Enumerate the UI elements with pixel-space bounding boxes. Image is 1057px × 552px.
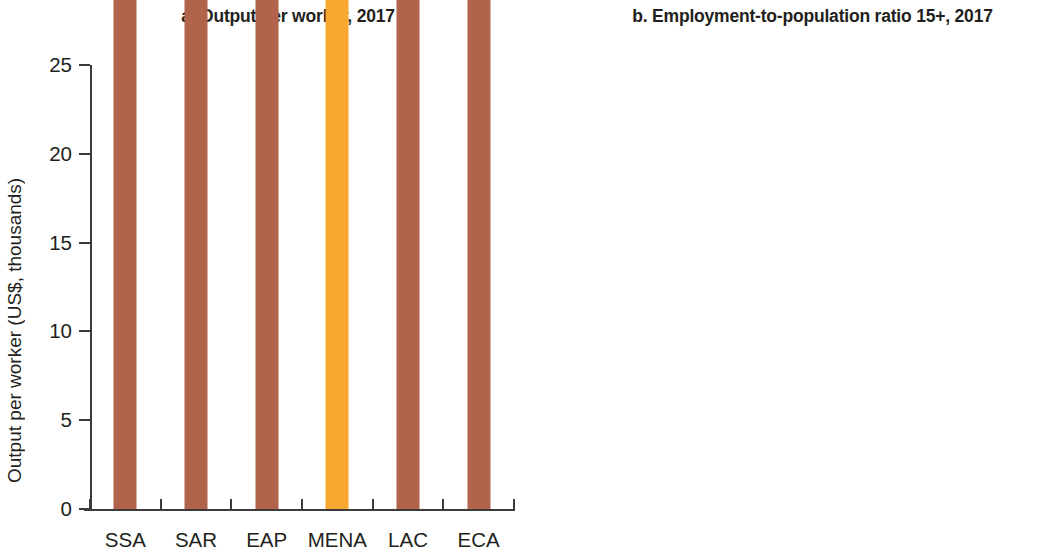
x-category-label-lac: LAC [388,528,428,552]
panel-a-x-tick [301,499,303,511]
panel-a-x-tick [442,499,444,511]
panel-b-title: b. Employment-to-population ratio 15+, 2… [530,6,1057,27]
panel-a-y-tick-label: 0 [61,497,72,521]
bar-a-mena[interactable]: 15,812MENA [326,0,349,509]
x-category-label-eca: ECA [458,528,500,552]
panel-a-y-tick-label: 10 [49,319,72,343]
panel-a-output-per-worker: a. Output per worker, 2017 Output per wo… [0,0,530,552]
bar-a-eap[interactable]: 11,719EAP [255,0,278,509]
panel-a-y-tick: 25 [79,64,90,66]
panel-a-x-tick [89,499,91,511]
x-category-label-mena: MENA [308,528,367,552]
panel-a-x-tick [230,499,232,511]
panel-a-x-tick [513,499,515,511]
bar-a-sar[interactable]: 4,735SAR [185,0,208,509]
panel-a-y-tick: 20 [79,153,90,155]
panel-a-y-axis-line [90,65,92,509]
panel-a-plot-area: 05101520254,374SSA4,735SAR11,719EAP15,81… [90,65,514,509]
panel-a-y-tick-label: 5 [61,408,72,432]
panel-a-y-tick: 10 [79,330,90,332]
two-panel-bar-figure: a. Output per worker, 2017 Output per wo… [0,0,1057,552]
bar-a-ssa[interactable]: 4,374SSA [114,0,137,509]
panel-a-y-tick-label: 25 [49,53,72,77]
bar-a-eca[interactable]: 19,219ECA [467,0,490,509]
panel-a-y-tick-label: 20 [49,141,72,165]
panel-a-y-tick-label: 15 [49,230,72,254]
panel-a-y-axis-label: Output per worker (US$, thousands) [4,140,26,520]
panel-b-employment-ratio: b. Employment-to-population ratio 15+, 2… [530,0,1057,552]
x-category-label-sar: SAR [175,528,217,552]
panel-a-x-tick [160,499,162,511]
panel-a-x-tick [372,499,374,511]
panel-a-x-axis-line [84,509,514,511]
bar-a-lac[interactable]: 18,684LAC [397,0,420,509]
panel-a-y-tick: 15 [79,242,90,244]
x-category-label-eap: EAP [246,528,287,552]
x-category-label-ssa: SSA [105,528,146,552]
panel-a-y-tick: 5 [79,419,90,421]
